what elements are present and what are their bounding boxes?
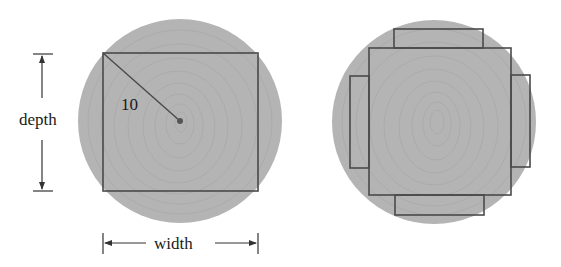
log-cross-section-diagram: 10 depth width <box>0 0 561 267</box>
radius-label: 10 <box>121 95 138 114</box>
width-label: width <box>154 234 193 253</box>
depth-arrow-up-icon <box>39 55 45 63</box>
depth-label: depth <box>19 110 57 129</box>
center-point <box>177 118 183 124</box>
depth-arrow-down-icon <box>39 182 45 190</box>
width-arrow-left-icon <box>104 240 112 246</box>
right-log-circle <box>332 20 536 224</box>
width-arrow-right-icon <box>249 240 257 246</box>
left-log: 10 depth width <box>19 19 282 254</box>
right-log <box>332 20 536 224</box>
